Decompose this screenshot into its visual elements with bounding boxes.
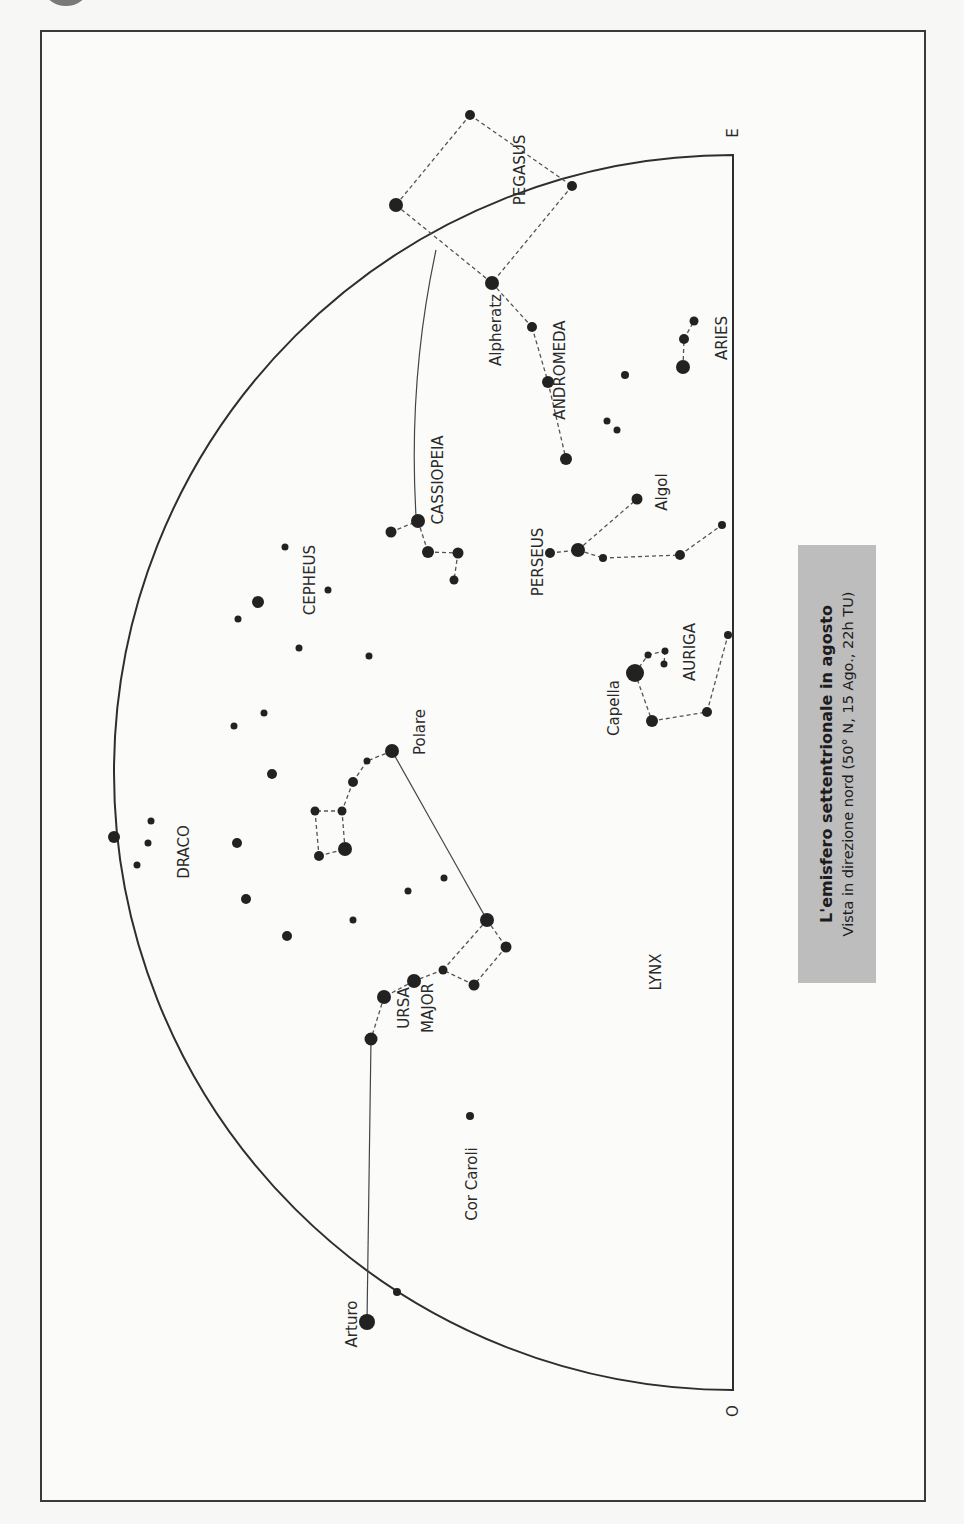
constellation-line bbox=[652, 712, 707, 721]
star-dot bbox=[261, 710, 268, 717]
star-dot bbox=[350, 917, 357, 924]
star-dot bbox=[679, 334, 689, 344]
constellation-line bbox=[443, 920, 487, 970]
star-dot bbox=[560, 453, 572, 465]
star-dot bbox=[338, 807, 347, 816]
constellation-label: MAJOR bbox=[419, 983, 437, 1033]
constellation-label: LYNX bbox=[647, 953, 665, 990]
constellation-line bbox=[396, 205, 492, 283]
star-dot bbox=[485, 276, 499, 290]
star-dot bbox=[422, 546, 434, 558]
star-dot bbox=[134, 862, 141, 869]
star-dot bbox=[453, 548, 464, 559]
star-dot bbox=[567, 181, 577, 191]
star-dot bbox=[599, 554, 607, 562]
constellation-label: CEPHEUS bbox=[301, 545, 319, 615]
star-dot bbox=[386, 527, 397, 538]
star-dot bbox=[145, 840, 152, 847]
star-dot bbox=[702, 707, 712, 717]
star-dot bbox=[235, 616, 242, 623]
star-label: Cor Caroli bbox=[463, 1147, 481, 1221]
star-dot bbox=[267, 769, 277, 779]
star-dot bbox=[364, 758, 371, 765]
pointer-line bbox=[367, 1039, 371, 1322]
star-dot bbox=[232, 838, 242, 848]
constellation-label: CASSIOPEIA bbox=[429, 435, 447, 525]
constellation-line bbox=[603, 555, 680, 558]
star-label: Algol bbox=[653, 473, 671, 510]
star-dot bbox=[466, 1112, 474, 1120]
pointer-lines bbox=[367, 751, 487, 1322]
star-dot bbox=[405, 888, 412, 895]
direction-east: E bbox=[724, 128, 742, 137]
star-dot bbox=[441, 875, 448, 882]
star-dot bbox=[604, 418, 611, 425]
constellation-label: DRACO bbox=[175, 825, 193, 879]
star-dot bbox=[626, 664, 644, 682]
star-dot bbox=[389, 198, 403, 212]
star-dot bbox=[231, 723, 238, 730]
star-dot bbox=[252, 596, 264, 608]
star-dot bbox=[632, 494, 643, 505]
star-dot bbox=[439, 966, 448, 975]
star-dot bbox=[296, 645, 303, 652]
star-dot bbox=[527, 322, 537, 332]
star-dot bbox=[241, 894, 251, 904]
star-dot bbox=[571, 543, 585, 557]
star-dot bbox=[469, 980, 480, 991]
star-dot bbox=[480, 913, 494, 927]
constellation-line bbox=[532, 327, 548, 382]
star-dot bbox=[377, 990, 391, 1004]
star-dot bbox=[621, 371, 629, 379]
constellation-label: AURIGA bbox=[681, 622, 699, 681]
star-dot bbox=[311, 807, 320, 816]
star-dot bbox=[348, 777, 358, 787]
constellation-line bbox=[315, 811, 319, 856]
star-dot bbox=[282, 544, 289, 551]
star-dot bbox=[365, 1033, 378, 1046]
star-dot bbox=[724, 631, 732, 639]
star-dot bbox=[501, 942, 512, 953]
constellation-line bbox=[707, 635, 728, 712]
star-dot bbox=[338, 842, 352, 856]
star-label: Polare bbox=[411, 709, 429, 755]
star-labels: AlpheratzAlgolCapellaPolareCor CaroliArt… bbox=[343, 294, 671, 1347]
constellation-label: ANDROMEDA bbox=[551, 320, 569, 420]
caption-subtitle: Vista in direzione nord (50° N, 15 Ago.,… bbox=[838, 592, 858, 937]
star-label: Arturo bbox=[343, 1301, 361, 1348]
star-dot bbox=[450, 576, 459, 585]
star-dot bbox=[359, 1314, 375, 1330]
star-dot bbox=[314, 851, 324, 861]
star-dot bbox=[465, 110, 475, 120]
star-dot bbox=[661, 661, 668, 668]
constellation-line bbox=[396, 115, 470, 205]
horizon-line bbox=[114, 155, 733, 1390]
constellation-line bbox=[474, 947, 506, 985]
star-dot bbox=[108, 831, 120, 843]
constellation-line bbox=[492, 186, 572, 283]
caption-title: L'emisfero settentrionale in agosto bbox=[816, 592, 838, 937]
constellation-label: ARIES bbox=[713, 316, 731, 360]
star-dot bbox=[645, 652, 652, 659]
star-dot bbox=[411, 514, 425, 528]
constellation-label: PERSEUS bbox=[529, 528, 547, 596]
star-dot bbox=[662, 648, 669, 655]
star-dot bbox=[718, 521, 726, 529]
pointer-line bbox=[392, 751, 487, 920]
star-dot bbox=[385, 744, 399, 758]
star-label: Capella bbox=[605, 680, 623, 736]
constellation-line bbox=[680, 525, 722, 555]
star-dot bbox=[282, 931, 292, 941]
star-dot bbox=[393, 1288, 401, 1296]
star-dot bbox=[676, 360, 690, 374]
direction-west: O bbox=[724, 1405, 742, 1417]
constellation-label: PEGASUS bbox=[511, 135, 529, 205]
constellation-line bbox=[578, 499, 637, 550]
caption-box: L'emisfero settentrionale in agosto Vist… bbox=[798, 545, 876, 983]
star-dot bbox=[675, 550, 685, 560]
star-dot bbox=[148, 818, 155, 825]
constellation-lines bbox=[315, 115, 728, 1039]
star-label: Alpheratz bbox=[487, 294, 505, 366]
star-dot bbox=[614, 427, 621, 434]
constellation-label: URSA bbox=[395, 987, 413, 1029]
